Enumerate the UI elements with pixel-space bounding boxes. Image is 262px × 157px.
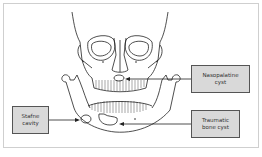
left-orbit-inner [91, 41, 111, 56]
label-traumatic-bone-cyst: Traumatic bone cyst [191, 110, 240, 138]
left-zygoma [78, 45, 92, 68]
label-stafne-cavity: Stafne cavity [12, 106, 49, 134]
right-orbit-inner [129, 41, 149, 56]
mandibular-arch [88, 102, 152, 107]
label-nasopalatine-cyst: Nasopalatine cyst [191, 65, 250, 93]
nasopalatine-lesion [114, 75, 124, 81]
arrowhead-stafne [75, 118, 80, 122]
arrowhead-traumatic [119, 122, 124, 126]
right-zygoma [148, 45, 162, 68]
arrowhead-nasopalatine [125, 77, 130, 81]
traumatic-lesion [99, 114, 117, 125]
